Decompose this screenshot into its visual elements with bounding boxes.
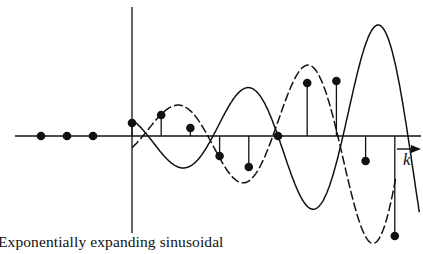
solid-sinusoid-curve bbox=[132, 25, 419, 212]
axes bbox=[15, 7, 421, 233]
sample-dot bbox=[361, 157, 370, 166]
dashed-sinusoid-curve bbox=[132, 65, 396, 243]
sample-dot bbox=[303, 79, 312, 88]
sample-dot bbox=[63, 132, 72, 141]
sample-dot bbox=[37, 132, 46, 141]
sample-dot bbox=[332, 77, 341, 86]
sample-dot bbox=[128, 119, 137, 128]
stems bbox=[37, 77, 399, 241]
sample-dot bbox=[89, 132, 98, 141]
sample-dot bbox=[245, 163, 254, 172]
sample-dot bbox=[186, 124, 195, 133]
figure-caption: Exponentially expanding sinusoidal bbox=[0, 233, 224, 251]
sample-dot bbox=[215, 152, 224, 161]
sample-dot bbox=[157, 111, 166, 120]
sample-dot bbox=[274, 132, 283, 141]
sample-dot bbox=[391, 232, 400, 241]
stem-plot bbox=[0, 0, 423, 254]
k-axis-label: k bbox=[403, 150, 411, 170]
